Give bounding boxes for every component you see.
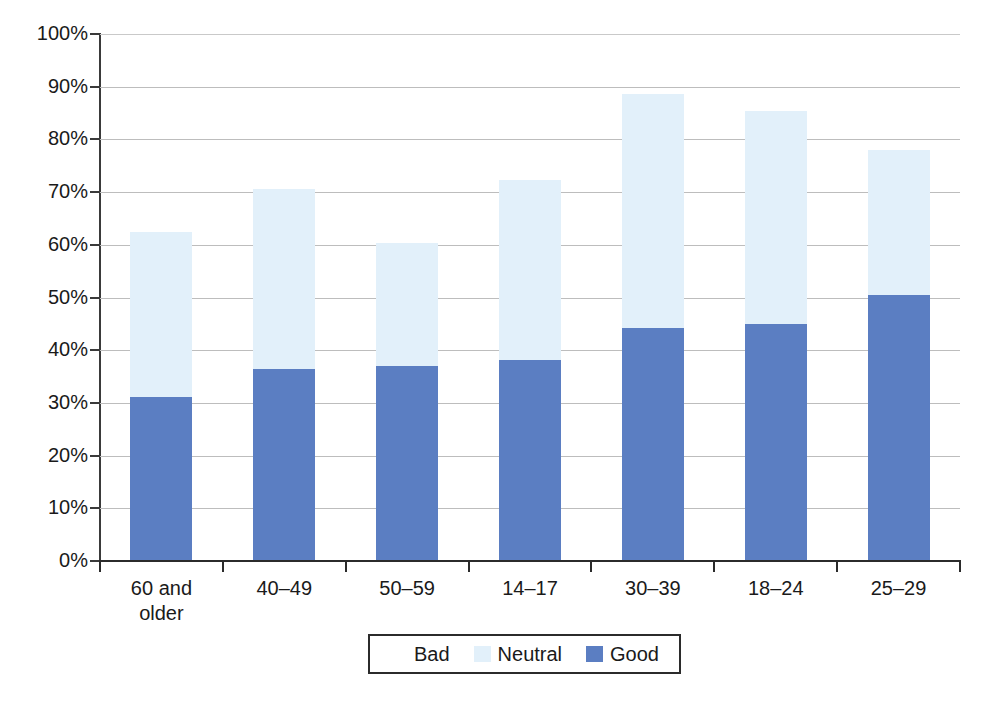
y-tick-label-container: 100%	[0, 23, 88, 43]
y-tick-label: 40%	[4, 339, 88, 359]
y-tick-label: 50%	[4, 287, 88, 307]
legend-entry[interactable]: Good	[574, 644, 671, 664]
legend-entry[interactable]: Bad	[378, 644, 462, 664]
y-tick-label: 10%	[4, 497, 88, 517]
y-tick-label: 60%	[4, 234, 88, 254]
bar-segment-neutral	[745, 111, 807, 324]
legend-label: Bad	[414, 644, 450, 664]
legend-swatch	[586, 646, 603, 662]
legend-swatch	[474, 646, 491, 662]
plot-area	[100, 34, 960, 561]
bar-segment-good	[253, 369, 315, 561]
x-tick-label-line: 50–59	[346, 576, 469, 601]
legend-label: Neutral	[498, 644, 562, 664]
x-tick-label: 40–49	[223, 576, 346, 601]
y-tick-label: 90%	[4, 76, 88, 96]
x-tick-mark	[713, 561, 715, 572]
x-tick-mark	[590, 561, 592, 572]
y-tick-label: 20%	[4, 445, 88, 465]
bar-stack	[622, 94, 684, 561]
x-tick-label-line: 40–49	[223, 576, 346, 601]
x-tick-mark	[99, 561, 101, 572]
gridline	[100, 34, 960, 35]
x-tick-label: 14–17	[469, 576, 592, 601]
x-tick-mark	[468, 561, 470, 572]
y-tick-label-container: 40%	[0, 339, 88, 359]
bar-segment-neutral	[130, 232, 192, 396]
x-tick-label: 25–29	[837, 576, 960, 601]
x-axis-line	[99, 560, 961, 562]
y-tick-label: 70%	[4, 181, 88, 201]
x-tick-label-line: 60 and	[100, 576, 223, 601]
x-tick-label-line: 30–39	[591, 576, 714, 601]
x-tick-mark	[345, 561, 347, 572]
bar-stack	[745, 111, 807, 561]
y-tick-label-container: 80%	[0, 128, 88, 148]
legend-entry[interactable]: Neutral	[462, 644, 574, 664]
bar-segment-neutral	[499, 180, 561, 360]
y-tick-label-container: 10%	[0, 497, 88, 517]
y-tick-label-container: 20%	[0, 445, 88, 465]
y-tick-label-container: 50%	[0, 287, 88, 307]
legend-swatch	[390, 646, 407, 662]
bar-segment-good	[499, 360, 561, 561]
x-tick-mark	[836, 561, 838, 572]
x-tick-label: 18–24	[714, 576, 837, 601]
bar-stack	[499, 180, 561, 561]
legend-label: Good	[610, 644, 659, 664]
y-tick-label-container: 0%	[0, 550, 88, 570]
bar-stack	[376, 243, 438, 561]
y-tick-label: 30%	[4, 392, 88, 412]
gridline	[100, 139, 960, 140]
bar-stack	[253, 189, 315, 561]
bar-stack	[868, 150, 930, 561]
bar-segment-neutral	[253, 189, 315, 369]
y-tick-label-container: 30%	[0, 392, 88, 412]
y-tick-label: 100%	[4, 23, 88, 43]
x-tick-label-line: older	[100, 601, 223, 626]
bar-stack	[130, 232, 192, 561]
bar-segment-good	[745, 324, 807, 561]
x-tick-label: 50–59	[346, 576, 469, 601]
y-tick-label: 80%	[4, 128, 88, 148]
y-tick-label-container: 90%	[0, 76, 88, 96]
stacked-bar-chart: 0%10%20%30%40%50%60%70%80%90%100% 60 and…	[0, 0, 983, 703]
bar-segment-good	[622, 328, 684, 561]
x-tick-label: 60 andolder	[100, 576, 223, 626]
bar-segment-good	[376, 366, 438, 561]
x-tick-label-line: 14–17	[469, 576, 592, 601]
x-tick-label-line: 25–29	[837, 576, 960, 601]
y-tick-label-container: 70%	[0, 181, 88, 201]
bar-segment-neutral	[376, 243, 438, 366]
y-tick-label-container: 60%	[0, 234, 88, 254]
x-tick-mark	[222, 561, 224, 572]
bar-segment-good	[868, 295, 930, 561]
bar-segment-neutral	[868, 150, 930, 295]
x-tick-label-line: 18–24	[714, 576, 837, 601]
bar-segment-neutral	[622, 94, 684, 328]
y-tick-label: 0%	[4, 550, 88, 570]
x-tick-mark	[959, 561, 961, 572]
x-tick-label: 30–39	[591, 576, 714, 601]
bar-segment-good	[130, 397, 192, 561]
gridline	[100, 87, 960, 88]
chart-legend: BadNeutralGood	[368, 634, 681, 674]
